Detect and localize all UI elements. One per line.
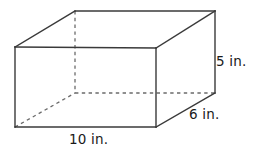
prism-drawing	[0, 0, 253, 155]
hidden-edge-bottom-left-diagonal	[15, 93, 75, 127]
rectangular-prism-figure: 5 in. 6 in. 10 in.	[0, 0, 253, 155]
dimension-label-height: 5 in.	[216, 55, 246, 69]
dimension-label-depth: 6 in.	[189, 108, 219, 122]
edge-top-left-diagonal	[15, 11, 75, 47]
dimension-label-width: 10 in.	[69, 133, 108, 147]
edge-top-right-diagonal	[156, 11, 215, 48]
edge-front-top	[15, 47, 156, 48]
